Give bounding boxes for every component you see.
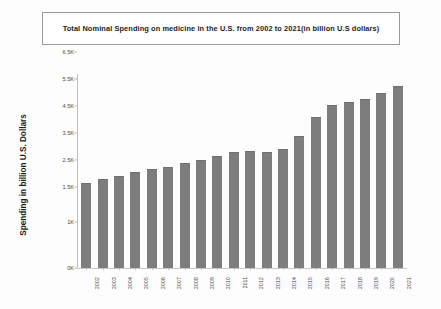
y-tick-label: 2.5K xyxy=(62,157,74,163)
bar xyxy=(147,169,157,268)
x-tick-mark xyxy=(283,268,284,270)
x-axis-tick-labels: 2002200320042005200620072008200920102011… xyxy=(78,269,406,307)
y-tick-label: 1K xyxy=(67,219,74,225)
x-tick-mark xyxy=(152,268,153,270)
bar xyxy=(180,163,190,268)
y-tick-mark xyxy=(74,52,77,53)
x-tick-label: 2020 xyxy=(389,277,395,289)
x-tick-label: 2013 xyxy=(275,277,281,289)
bar-series xyxy=(78,74,406,268)
y-axis-tick-labels: 0K1K1.5K2.5K3.5K4.5K5.5K6.5K xyxy=(48,0,74,309)
chart-figure: Total Nominal Spending on medicine in th… xyxy=(0,0,441,309)
bar xyxy=(278,149,288,268)
x-tick-mark xyxy=(381,268,382,270)
y-tick-mark xyxy=(74,106,77,107)
x-tick-mark xyxy=(119,268,120,270)
bar xyxy=(360,99,370,268)
x-tick-mark xyxy=(234,268,235,270)
bar xyxy=(81,183,91,268)
x-tick-label: 2017 xyxy=(340,277,346,289)
bar xyxy=(163,167,173,268)
y-tick-label: 1.5K xyxy=(62,184,74,190)
y-tick-mark xyxy=(74,79,77,80)
x-tick-label: 2005 xyxy=(143,277,149,289)
x-tick-mark xyxy=(86,268,87,270)
x-tick-mark xyxy=(168,268,169,270)
bar xyxy=(98,179,108,268)
bar xyxy=(327,105,337,268)
x-tick-mark xyxy=(250,268,251,270)
bar xyxy=(114,176,124,268)
y-tick-mark xyxy=(74,160,77,161)
x-tick-label: 2007 xyxy=(176,277,182,289)
x-tick-mark xyxy=(185,268,186,270)
x-tick-mark xyxy=(135,268,136,270)
x-tick-label: 2004 xyxy=(127,277,133,289)
x-tick-label: 2016 xyxy=(324,277,330,289)
chart-title-box: Total Nominal Spending on medicine in th… xyxy=(42,12,400,45)
x-tick-label: 2018 xyxy=(357,277,363,289)
bar xyxy=(196,160,206,268)
x-tick-label: 2010 xyxy=(225,277,231,289)
x-tick-mark xyxy=(398,268,399,270)
y-tick-label: 3.5K xyxy=(62,130,74,136)
bar xyxy=(294,136,304,268)
bar xyxy=(311,117,321,268)
x-tick-label: 2006 xyxy=(160,277,166,289)
x-tick-label: 2008 xyxy=(193,277,199,289)
bar xyxy=(393,86,403,268)
x-tick-mark xyxy=(201,268,202,270)
x-tick-label: 2014 xyxy=(291,277,297,289)
x-tick-mark xyxy=(299,268,300,270)
y-tick-label: 4.5K xyxy=(62,103,74,109)
bar xyxy=(229,152,239,268)
y-tick-mark xyxy=(74,187,77,188)
x-tick-label: 2019 xyxy=(373,277,379,289)
y-tick-label: 5.5K xyxy=(62,76,74,82)
bar xyxy=(130,172,140,268)
bar xyxy=(262,152,272,268)
x-tick-mark xyxy=(365,268,366,270)
x-tick-mark xyxy=(332,268,333,270)
y-tick-label: 6.5K xyxy=(62,49,74,55)
x-tick-mark xyxy=(316,268,317,270)
y-tick-mark xyxy=(74,222,77,223)
y-axis-title: Spending in billion U.S. Dollars xyxy=(19,80,28,270)
x-tick-label: 2009 xyxy=(209,277,215,289)
bar xyxy=(212,156,222,268)
x-tick-mark xyxy=(349,268,350,270)
chart-title: Total Nominal Spending on medicine in th… xyxy=(57,24,386,34)
y-tick-label: 0K xyxy=(67,265,74,271)
x-tick-label: 2003 xyxy=(111,277,117,289)
y-tick-mark xyxy=(74,268,77,269)
bar xyxy=(245,151,255,268)
x-tick-mark xyxy=(217,268,218,270)
x-tick-label: 2021 xyxy=(406,277,412,289)
bar xyxy=(344,102,354,268)
y-axis-title-wrapper: Spending in billion U.S. Dollars xyxy=(19,0,33,78)
x-tick-label: 2012 xyxy=(258,277,264,289)
x-tick-mark xyxy=(267,268,268,270)
bar xyxy=(376,93,386,269)
y-tick-mark xyxy=(74,133,77,134)
x-tick-label: 2011 xyxy=(242,277,248,289)
x-tick-mark xyxy=(103,268,104,270)
x-tick-label: 2002 xyxy=(94,277,100,289)
x-tick-label: 2015 xyxy=(307,277,313,289)
